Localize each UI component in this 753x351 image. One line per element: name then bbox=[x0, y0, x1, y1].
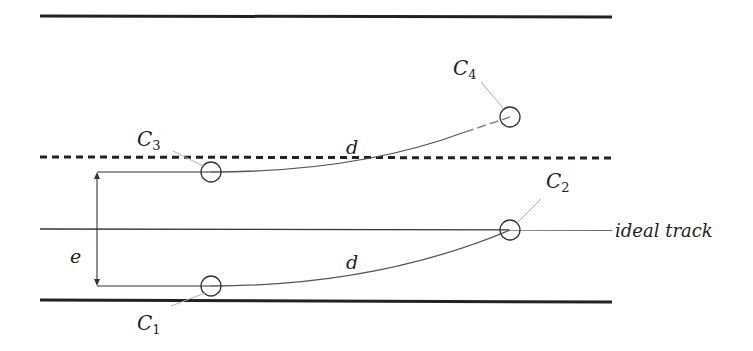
label-d-upper: d bbox=[346, 136, 358, 158]
upper-trajectory-curve bbox=[211, 132, 465, 172]
lower-trajectory-curve bbox=[211, 230, 510, 286]
vehicle-track-diagram: C1 C2 C3 C4 d d e ideal track bbox=[0, 0, 753, 351]
bottom-rail-line bbox=[40, 300, 612, 302]
label-ideal-track: ideal track bbox=[615, 220, 713, 241]
c2-leader-line bbox=[518, 199, 541, 222]
top-rail-line bbox=[40, 16, 612, 17]
label-c1: C1 bbox=[137, 311, 161, 337]
label-c3: C3 bbox=[137, 127, 161, 153]
label-c4: C4 bbox=[453, 56, 477, 82]
label-c2: C2 bbox=[546, 169, 570, 195]
label-e: e bbox=[70, 245, 81, 267]
c4-leader-line bbox=[481, 82, 503, 108]
label-d-lower: d bbox=[346, 251, 358, 273]
dashed-limit-line bbox=[40, 157, 612, 158]
ideal-track-line bbox=[40, 229, 612, 230]
